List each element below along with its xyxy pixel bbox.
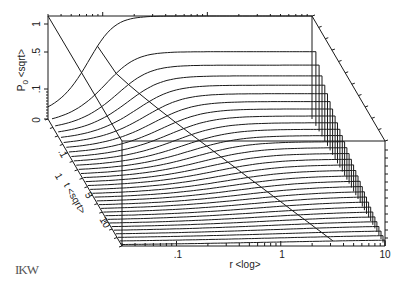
- y-tick-0: 0: [31, 117, 42, 123]
- trace-lines: [48, 16, 385, 246]
- tick-mark: [119, 246, 122, 247]
- x-tick-01: .1: [174, 249, 183, 260]
- tick-mark: [80, 178, 83, 179]
- trace-line: [48, 16, 312, 119]
- tick-mark: [325, 38, 328, 39]
- x-tick-10: 10: [379, 249, 391, 260]
- z-tick-10: 10: [97, 215, 112, 231]
- tick-mark: [75, 170, 78, 171]
- trace-line: [101, 192, 364, 210]
- svg-text:P0 <sqrt>: P0 <sqrt>: [16, 49, 30, 91]
- trace-line: [74, 123, 338, 164]
- tick-mark: [372, 117, 375, 118]
- tick-mark: [378, 129, 381, 130]
- tick-mark: [385, 140, 388, 141]
- z-axis-line: [48, 119, 122, 246]
- z-axis-title: t <sqrt>: [62, 181, 89, 216]
- tick-mark: [99, 212, 102, 213]
- tick-mark: [55, 136, 58, 137]
- trace-line: [116, 227, 379, 236]
- tick-mark: [60, 144, 63, 145]
- tick-mark: [345, 72, 348, 73]
- trace-line: [122, 240, 385, 246]
- y-tick-1: 1: [31, 21, 42, 27]
- tick-mark: [332, 49, 335, 50]
- trace-line: [118, 231, 381, 239]
- ikw-logo: IKW: [15, 262, 38, 278]
- tick-mark: [94, 204, 97, 205]
- trace-line: [97, 181, 360, 203]
- tick-mark: [312, 15, 315, 16]
- tick-mark: [339, 60, 342, 61]
- tick-mark: [365, 106, 368, 107]
- tick-mark: [70, 161, 73, 162]
- tick-mark: [114, 238, 117, 239]
- trace-line: [105, 202, 368, 217]
- tick-mark: [352, 83, 355, 84]
- z-tick-5: 5: [83, 190, 96, 201]
- z-tick-1: 1: [53, 171, 66, 182]
- x-tick-1: 1: [279, 249, 285, 260]
- tick-mark: [319, 26, 322, 27]
- y-tick-01: .1: [31, 84, 42, 93]
- tick-mark: [358, 95, 361, 96]
- z-tick-01: .1: [56, 147, 70, 160]
- tick-mark: [50, 127, 53, 128]
- x-axis-title: r <log>: [229, 259, 260, 270]
- waterfall-chart: 1 .5 .1 0 P0 <sqrt> .1 1 5 10 t <sqrt> .…: [0, 0, 405, 295]
- tick-mark: [84, 187, 87, 188]
- tick-mark: [109, 229, 112, 230]
- right-back-diagonal: [312, 16, 385, 141]
- y-axis-title: P0 <sqrt>: [16, 49, 30, 91]
- y-tick-05: .5: [31, 47, 42, 56]
